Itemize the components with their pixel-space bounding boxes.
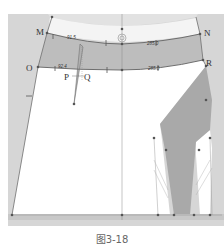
label-Q: Q	[84, 72, 91, 82]
label-M: M	[36, 27, 44, 37]
measure-top-left: 91.5	[67, 35, 76, 40]
pattern-diagram: M N O P Q R 91.5 285.0 92.4 285.0	[0, 0, 224, 249]
measure-bottom-left: 92.4	[58, 64, 67, 69]
label-N: N	[204, 28, 211, 38]
measure-top-right: 285.0	[146, 41, 159, 46]
label-O: O	[26, 63, 33, 73]
figure-caption: 图3-18	[0, 231, 224, 246]
label-R: R	[206, 58, 212, 68]
measure-bottom-right: 285.0	[147, 66, 160, 71]
label-P: P	[64, 72, 69, 82]
